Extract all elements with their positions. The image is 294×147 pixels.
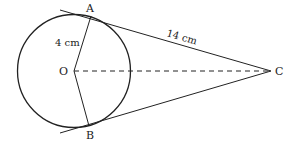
geometry-diagram: A B C O 4 cm 14 cm: [0, 0, 294, 147]
tangent-line-b: [60, 71, 271, 133]
tangent-length-label: 14 cm: [165, 27, 198, 46]
radius-ob: [74, 71, 89, 126]
point-o-label: O: [59, 65, 68, 78]
point-a-label: A: [85, 2, 95, 15]
tangent-line-a: [60, 10, 271, 71]
radius-length-label: 4 cm: [55, 37, 80, 48]
point-c-label: C: [275, 65, 283, 78]
point-b-label: B: [86, 129, 94, 142]
